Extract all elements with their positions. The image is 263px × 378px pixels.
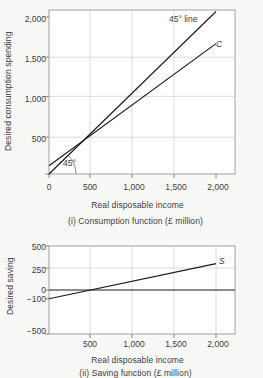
panel-consumption-function: Desired consumption spending 2,000 1,500…: [0, 0, 251, 222]
plot-frame-consumption: [49, 10, 235, 174]
panel-saving-function: Desired saving 500 250 0 −100 −500 500 1…: [0, 235, 251, 376]
x-axis-title-consumption: Real disposable income: [12, 200, 263, 210]
x-axis-title-saving: Real disposable income: [12, 355, 263, 365]
caption-panel-ii: (ii) Saving function (£ million): [10, 368, 261, 378]
annotation-45-degree: 45°: [63, 158, 76, 168]
saving-function-plot: [0, 235, 251, 355]
consumption-function-plot: [0, 0, 251, 200]
series-label-s: S: [219, 256, 225, 266]
series-label-45-degree-line: 45° line: [169, 14, 197, 24]
caption-panel-i: (i) Consumption function (£ million): [10, 216, 261, 226]
series-label-c: C: [216, 39, 222, 49]
